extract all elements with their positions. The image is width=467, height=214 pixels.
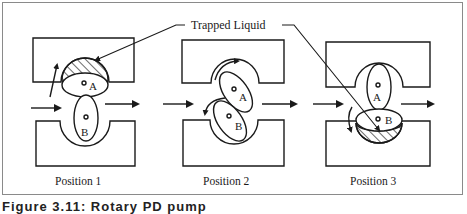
rotary-pump-diagram: A B Position 1 A B Position 2 A B Positi… <box>0 0 467 200</box>
trapped-liquid-label: Trapped Liquid <box>191 18 266 32</box>
position-2-label: Position 2 <box>203 175 250 187</box>
rotor-b-label-3: B <box>385 114 392 126</box>
position-1 <box>31 38 138 166</box>
rotor-a-label-3: A <box>373 91 381 103</box>
rotor-b-label-1: B <box>81 126 88 138</box>
rotor-b-label-2: B <box>235 120 242 132</box>
position-1-label: Position 1 <box>55 175 102 187</box>
position-2 <box>163 40 296 166</box>
position-3 <box>313 42 433 166</box>
position-3-label: Position 3 <box>350 175 397 187</box>
rotor-a-label-1: A <box>89 80 97 92</box>
rotor-a-label-2: A <box>239 91 247 103</box>
figure-caption: Figure 3.11: Rotary PD pump <box>2 199 207 214</box>
